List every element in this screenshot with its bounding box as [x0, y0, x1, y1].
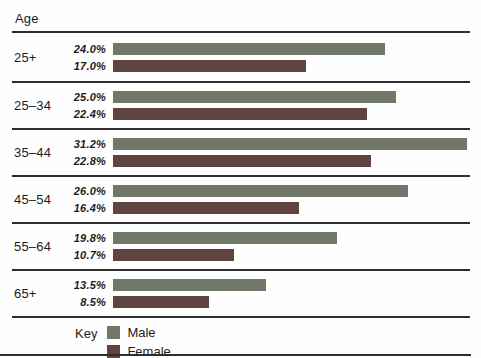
male-swatch-icon — [107, 326, 120, 339]
age-group-label: 35–44 — [12, 145, 66, 160]
female-bar — [113, 249, 234, 261]
age-row: 65+13.5%8.5% — [12, 271, 470, 318]
age-axis-label: Age — [15, 11, 39, 26]
female-bar-line: 8.5% — [66, 296, 470, 308]
bottom-rule — [0, 354, 471, 356]
age-axis-header: Age — [12, 0, 470, 33]
female-value-label: 10.7% — [66, 249, 113, 261]
legend: Key Male Female — [12, 318, 470, 358]
age-group-label: 25–34 — [12, 98, 66, 113]
bar-group: 13.5%8.5% — [66, 279, 470, 308]
male-value-label: 24.0% — [66, 43, 113, 55]
male-bar — [113, 279, 266, 291]
female-value-label: 22.8% — [66, 155, 113, 167]
male-bar — [113, 185, 408, 197]
age-row: 35–4431.2%22.8% — [12, 130, 470, 177]
male-bar-track — [113, 185, 470, 197]
bar-group: 19.8%10.7% — [66, 232, 470, 261]
age-group-label: 65+ — [12, 286, 66, 301]
female-bar-track — [113, 108, 470, 120]
chart-rows: 25+24.0%17.0%25–3425.0%22.4%35–4431.2%22… — [12, 33, 470, 318]
male-bar-line: 19.8% — [66, 232, 470, 244]
male-value-label: 25.0% — [66, 91, 113, 103]
female-value-label: 16.4% — [66, 202, 113, 214]
male-bar — [113, 91, 396, 103]
male-bar-line: 31.2% — [66, 138, 470, 150]
female-bar-track — [113, 249, 470, 261]
age-row: 55–6419.8%10.7% — [12, 224, 470, 271]
male-bar-line: 25.0% — [66, 91, 470, 103]
female-bar — [113, 296, 209, 308]
female-bar-track — [113, 202, 470, 214]
male-value-label: 19.8% — [66, 232, 113, 244]
age-group-label: 25+ — [12, 50, 66, 65]
male-bar-track — [113, 91, 470, 103]
bar-group: 24.0%17.0% — [66, 43, 470, 72]
bar-group: 25.0%22.4% — [66, 91, 470, 120]
legend-item-male: Male — [107, 325, 170, 340]
female-bar-track — [113, 296, 470, 308]
female-bar — [113, 60, 306, 72]
female-bar-line: 16.4% — [66, 202, 470, 214]
female-bar-track — [113, 155, 470, 167]
age-group-label: 45–54 — [12, 192, 66, 207]
female-bar — [113, 108, 367, 120]
female-bar — [113, 202, 299, 214]
female-swatch-icon — [107, 345, 120, 358]
bar-chart-figure: Age 25+24.0%17.0%25–3425.0%22.4%35–4431.… — [0, 0, 481, 358]
male-bar-track — [113, 232, 470, 244]
chart-area: Age 25+24.0%17.0%25–3425.0%22.4%35–4431.… — [12, 0, 470, 358]
female-value-label: 17.0% — [66, 60, 113, 72]
female-value-label: 22.4% — [66, 108, 113, 120]
female-bar — [113, 155, 371, 167]
male-value-label: 26.0% — [66, 185, 113, 197]
male-bar — [113, 138, 467, 150]
male-legend-label: Male — [127, 325, 155, 340]
female-value-label: 8.5% — [66, 296, 113, 308]
female-bar-line: 17.0% — [66, 60, 470, 72]
female-bar-track — [113, 60, 470, 72]
age-row: 45–5426.0%16.4% — [12, 177, 470, 224]
male-bar-line: 26.0% — [66, 185, 470, 197]
female-bar-line: 22.4% — [66, 108, 470, 120]
male-bar — [113, 232, 337, 244]
male-bar — [113, 43, 385, 55]
male-bar-track — [113, 279, 470, 291]
male-bar-line: 13.5% — [66, 279, 470, 291]
male-bar-track — [113, 43, 470, 55]
age-group-label: 55–64 — [12, 239, 66, 254]
age-row: 25+24.0%17.0% — [12, 33, 470, 83]
bar-group: 26.0%16.4% — [66, 185, 470, 214]
female-bar-line: 10.7% — [66, 249, 470, 261]
male-value-label: 13.5% — [66, 279, 113, 291]
male-value-label: 31.2% — [66, 138, 113, 150]
age-row: 25–3425.0%22.4% — [12, 83, 470, 130]
female-bar-line: 22.8% — [66, 155, 470, 167]
bar-group: 31.2%22.8% — [66, 138, 470, 167]
male-bar-track — [113, 138, 470, 150]
male-bar-line: 24.0% — [66, 43, 470, 55]
